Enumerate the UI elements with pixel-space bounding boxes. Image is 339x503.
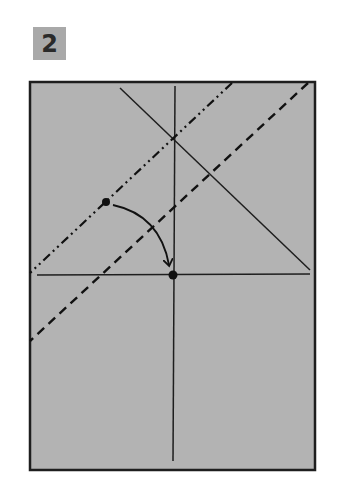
target-point-dot — [169, 271, 178, 280]
source-point-dot — [102, 198, 110, 206]
origami-diagram — [0, 0, 339, 503]
